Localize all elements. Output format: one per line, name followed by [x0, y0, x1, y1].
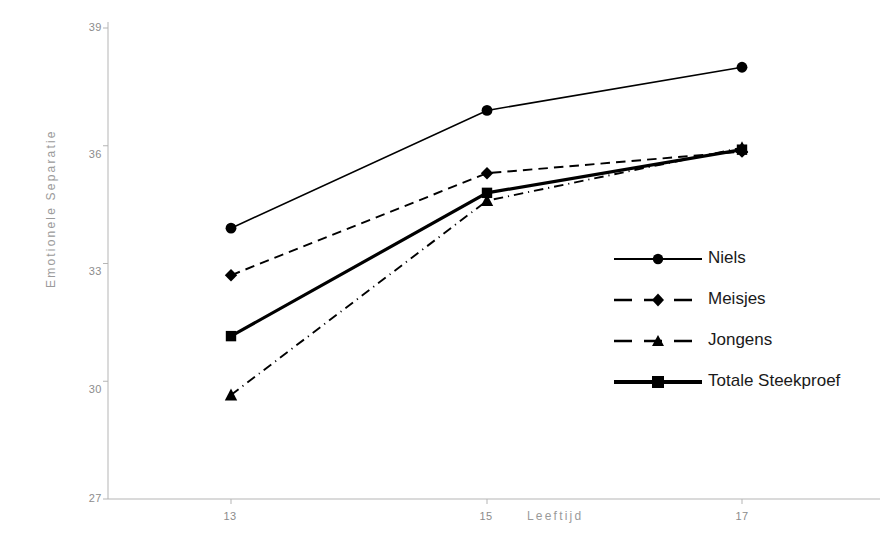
x-tick-label-13: 13: [210, 510, 250, 522]
legend-label-niels: Niels: [708, 248, 746, 268]
y-tick-label-36: 36: [72, 148, 102, 160]
legend-item-jongens: Jongens: [612, 330, 882, 371]
legend-key-totale-steekproef: [612, 371, 704, 393]
data-point-meisjes-13: [225, 269, 237, 281]
data-point-totale-steekproef-17: [737, 144, 747, 154]
legend-key-niels: [612, 248, 704, 270]
x-axis-title: Leeftijd: [527, 509, 583, 523]
legend-item-totale-steekproef: Totale Steekproef: [612, 371, 882, 412]
legend-label-meisjes: Meisjes: [708, 289, 766, 309]
data-point-niels-15: [482, 105, 493, 116]
legend-key-jongens: [612, 330, 704, 352]
y-tick-label-27: 27: [72, 492, 102, 504]
data-point-totale-steekproef-13: [226, 331, 236, 341]
y-tick-label-30: 30: [72, 383, 102, 395]
data-point-totale-steekproef-15: [482, 188, 492, 198]
legend-item-meisjes: Meisjes: [612, 289, 882, 330]
chart-container: 39 36 33 30 27 13 15 17 Emotionele Separ…: [0, 0, 895, 545]
legend-label-jongens: Jongens: [708, 330, 772, 350]
data-point-niels-13: [226, 223, 237, 234]
x-tick-label-15: 15: [466, 510, 506, 522]
data-point-meisjes-15: [481, 167, 493, 179]
legend-key-meisjes: [612, 289, 704, 311]
y-tick-label-33: 33: [72, 265, 102, 277]
y-tick-label-39: 39: [72, 21, 102, 33]
legend-item-niels: Niels: [612, 248, 882, 289]
chart-legend: Niels Meisjes Jongens Totale Steekproef: [612, 248, 882, 412]
legend-label-totale-steekproef: Totale Steekproef: [708, 371, 840, 391]
y-axis-title: Emotionele Separatie: [44, 129, 58, 288]
data-point-jongens-13: [225, 389, 237, 401]
data-point-niels-17: [737, 62, 748, 73]
x-tick-label-17: 17: [722, 510, 762, 522]
